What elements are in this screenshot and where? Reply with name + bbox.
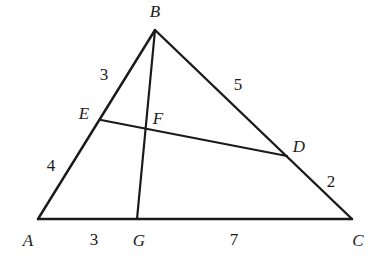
- vertex-label-D: D: [293, 138, 305, 155]
- vertex-label-G: G: [133, 232, 145, 249]
- length-label-BD: 5: [234, 76, 243, 93]
- length-label-BE: 3: [100, 66, 109, 83]
- cevians: [101, 30, 287, 219]
- vertex-label-E: E: [79, 105, 89, 122]
- vertex-label-C: C: [352, 232, 363, 249]
- geometry-figure: A B C D E F G 3 4 5 2 3 7: [0, 0, 385, 267]
- length-label-EA: 4: [47, 157, 56, 174]
- segment-cevian-ED: [101, 120, 287, 156]
- segment-side-BC: [155, 30, 352, 219]
- length-label-DC: 2: [327, 173, 336, 190]
- geometry-canvas: [0, 0, 385, 267]
- segment-side-AB: [38, 30, 155, 219]
- vertex-label-A: A: [23, 232, 33, 249]
- vertex-label-B: B: [150, 3, 160, 20]
- triangle-outline: [38, 30, 352, 219]
- length-label-AG: 3: [90, 231, 99, 248]
- vertex-label-F: F: [153, 110, 163, 127]
- length-label-GC: 7: [230, 231, 239, 248]
